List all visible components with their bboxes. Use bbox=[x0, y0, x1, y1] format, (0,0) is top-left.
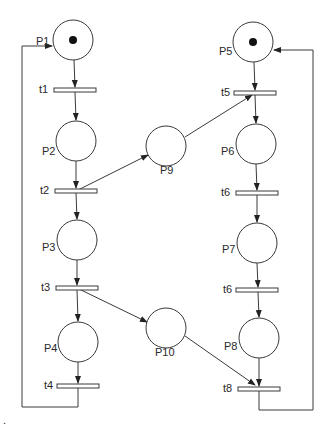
transition-t8-label: t8 bbox=[223, 382, 232, 394]
arc-p1-t1 bbox=[74, 60, 75, 87]
arc-p7-t6b bbox=[257, 263, 258, 287]
transition-t6b[interactable]: t6 bbox=[223, 283, 278, 295]
place-p3-circle[interactable] bbox=[57, 220, 97, 260]
transition-t6b-label: t6 bbox=[223, 283, 232, 295]
arc-t2-p9 bbox=[78, 155, 148, 190]
place-p6[interactable]: P6 bbox=[221, 124, 276, 164]
place-p8-label: P8 bbox=[224, 340, 237, 352]
place-p3[interactable]: P3 bbox=[42, 220, 97, 260]
transition-t1-label: t1 bbox=[39, 83, 48, 95]
place-p4[interactable]: P4 bbox=[44, 322, 98, 362]
arc-t1-p2 bbox=[75, 92, 76, 120]
place-p7-label: P7 bbox=[222, 243, 235, 255]
petri-net-diagram: P1 P2 P3 P4 P5 P6 bbox=[0, 0, 331, 426]
place-p8[interactable]: P8 bbox=[224, 318, 279, 358]
transition-t5-label: t5 bbox=[221, 86, 230, 98]
footnote-mark: . bbox=[3, 414, 6, 426]
transition-t3-label: t3 bbox=[41, 281, 50, 293]
transition-t5[interactable]: t5 bbox=[221, 86, 276, 98]
arc-p5-t5 bbox=[254, 62, 255, 90]
place-p6-label: P6 bbox=[221, 145, 234, 157]
diagram-svg: P1 P2 P3 P4 P5 P6 bbox=[0, 0, 331, 426]
arc-t3-p10 bbox=[79, 289, 147, 322]
place-p4-label: P4 bbox=[44, 342, 57, 354]
transition-t4-bar[interactable] bbox=[57, 384, 99, 388]
place-p2[interactable]: P2 bbox=[42, 121, 96, 161]
transition-t2-label: t2 bbox=[40, 184, 49, 196]
place-p9-label: P9 bbox=[160, 164, 173, 176]
arc-t3-p4 bbox=[77, 290, 78, 321]
place-p9-circle[interactable] bbox=[146, 126, 186, 166]
place-p6-circle[interactable] bbox=[236, 124, 276, 164]
transition-t6a[interactable]: t6 bbox=[221, 186, 278, 198]
arc-t2-p3 bbox=[76, 193, 77, 219]
transition-t6a-bar[interactable] bbox=[236, 191, 278, 195]
place-p7-circle[interactable] bbox=[237, 223, 277, 263]
place-p2-label: P2 bbox=[42, 145, 55, 157]
transition-t3[interactable]: t3 bbox=[41, 281, 98, 293]
arc-t5-p6 bbox=[255, 95, 256, 123]
transition-t8[interactable]: t8 bbox=[223, 382, 280, 394]
place-p5[interactable]: P5 bbox=[219, 22, 273, 62]
transition-t6a-label: t6 bbox=[221, 186, 230, 198]
place-p2-circle[interactable] bbox=[56, 121, 96, 161]
transition-t1[interactable]: t1 bbox=[39, 83, 96, 95]
transition-t2-bar[interactable] bbox=[55, 189, 97, 193]
transition-t1-bar[interactable] bbox=[54, 88, 96, 92]
place-p3-label: P3 bbox=[42, 241, 55, 253]
place-p10[interactable]: P10 bbox=[146, 308, 186, 358]
arc-t6b-p8 bbox=[258, 292, 259, 317]
place-p10-circle[interactable] bbox=[146, 308, 186, 348]
place-p9[interactable]: P9 bbox=[146, 126, 186, 176]
transition-t8-bar[interactable] bbox=[238, 387, 280, 391]
transition-t5-bar[interactable] bbox=[234, 91, 276, 95]
place-p7[interactable]: P7 bbox=[222, 223, 277, 263]
transition-t6b-bar[interactable] bbox=[236, 288, 278, 292]
transition-t3-bar[interactable] bbox=[56, 286, 98, 290]
place-p5-label: P5 bbox=[219, 45, 232, 57]
token-icon bbox=[69, 36, 77, 44]
place-p4-circle[interactable] bbox=[58, 322, 98, 362]
transition-t2[interactable]: t2 bbox=[40, 184, 97, 196]
place-p1[interactable]: P1 bbox=[36, 20, 93, 60]
transition-t4[interactable]: t4 bbox=[44, 379, 99, 391]
place-p8-circle[interactable] bbox=[239, 318, 279, 358]
place-p1-label: P1 bbox=[36, 35, 49, 47]
token-icon bbox=[249, 38, 257, 46]
arc-p6-t6a bbox=[256, 164, 257, 190]
place-p10-label: P10 bbox=[155, 346, 175, 358]
transition-t4-label: t4 bbox=[44, 379, 53, 391]
